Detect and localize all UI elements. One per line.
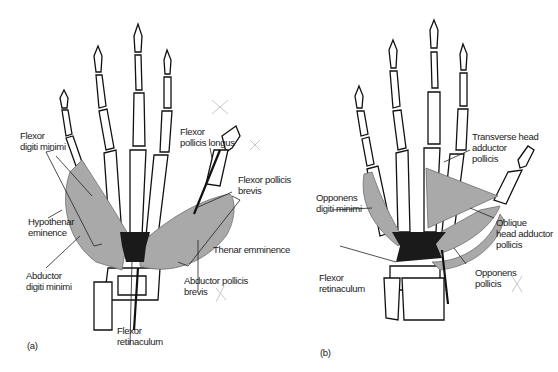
middle-finger-bones	[130, 24, 146, 236]
label-line: pollicis	[475, 278, 516, 289]
label-line: retinaculum	[319, 283, 365, 294]
label-line: pollicis	[472, 153, 538, 164]
label-line: pollicis	[496, 239, 553, 250]
label-line: Transverse head	[472, 131, 538, 142]
label-line: digiti minimi	[316, 203, 362, 214]
label-line: pollicis longus	[180, 137, 235, 148]
ring-finger-bones-b	[389, 40, 410, 232]
label-line: Flexor	[319, 272, 365, 283]
label-line: eminence	[28, 227, 74, 238]
label-flexor-retinaculum-b: Flexor retinaculum	[319, 272, 365, 294]
wrist-bones-b	[384, 266, 444, 320]
label-line: Abductor	[26, 270, 72, 281]
label-opponens-digiti-minimi: Opponens digiti minimi	[316, 192, 362, 214]
label-line: Opponens	[475, 267, 516, 278]
label-line: brevis	[238, 185, 291, 196]
label-abductor-pollicis-brevis: Abductor pollicis brevis	[184, 275, 248, 297]
label-line: Flexor	[180, 126, 235, 137]
label-line: Opponens	[316, 192, 362, 203]
label-line: digiti minimi	[20, 141, 66, 152]
label-flexor-pollicis-brevis: Flexor pollicis brevis	[238, 174, 291, 196]
panel-label-a: (a)	[27, 340, 38, 351]
label-line: digiti minimi	[26, 281, 72, 292]
label-line: adductor	[472, 142, 538, 153]
label-oblique-head-adductor-pollicis: Oblique head adductor pollicis	[496, 217, 553, 250]
label-abductor-digiti-minimi: Abductor digiti minimi	[26, 270, 72, 292]
panel-label-b: (b)	[320, 347, 331, 358]
label-line: Thenar emminence	[213, 244, 290, 255]
label-line: Flexor	[20, 130, 66, 141]
label-line: Oblique	[496, 217, 553, 228]
label-transverse-head-adductor-pollicis: Transverse head adductor pollicis	[472, 131, 538, 164]
label-line: Flexor pollicis	[238, 174, 291, 185]
label-line: Flexor	[117, 325, 163, 336]
label-line: head adductor	[496, 228, 553, 239]
label-line: Abductor pollicis	[184, 275, 248, 286]
label-hypothenar-eminence: Hypothenar eminence	[28, 216, 74, 238]
label-flexor-retinaculum-a: Flexor retinaculum	[117, 325, 163, 347]
label-flexor-pollicis-longus: Flexor pollicis longus	[180, 126, 235, 148]
index-finger-bones	[146, 50, 172, 236]
label-line: retinaculum	[117, 336, 163, 347]
label-line: brevis	[184, 286, 248, 297]
wrist-bones	[94, 268, 160, 330]
label-thenar-eminence: Thenar emminence	[213, 244, 290, 255]
label-flexor-digiti-minimi: Flexor digiti minimi	[20, 130, 66, 152]
label-opponens-pollicis: Opponens pollicis	[475, 267, 516, 289]
label-line: Hypothenar	[28, 216, 74, 227]
